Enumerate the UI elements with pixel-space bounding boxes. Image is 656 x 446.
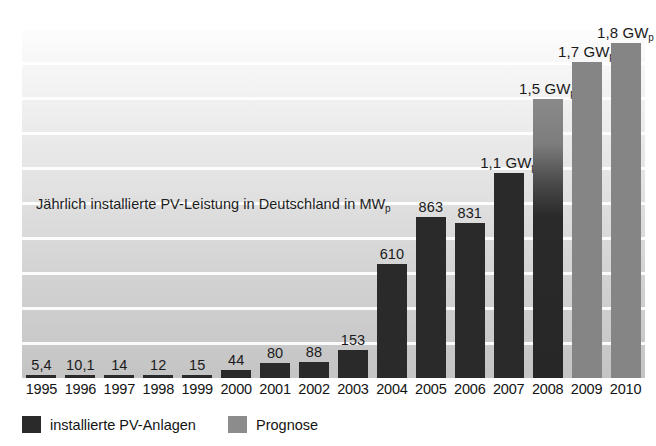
bar-value-text: 1,8 GW (597, 24, 648, 41)
bar-slot: 1,7 GWp (572, 28, 602, 378)
bar-value-label-2003: 153 (341, 332, 366, 348)
bar-value-label-2004: 610 (380, 246, 405, 262)
bar-value-label-1998: 12 (150, 357, 166, 373)
bar-1995[interactable] (26, 375, 56, 379)
x-axis-tick-2006: 2006 (450, 381, 489, 397)
bar-value-text: 5,4 (31, 357, 51, 373)
bar-value-text: 12 (150, 357, 166, 373)
chart-title: Jährlich installierte PV-Leistung in Deu… (36, 196, 391, 212)
bar-value-label-1999: 15 (189, 357, 205, 373)
bar-value-label-2006: 831 (458, 205, 483, 221)
bar-value-text: 1,5 GW (519, 80, 570, 97)
bar-value-text: 10,1 (66, 357, 95, 373)
x-axis-tick-1999: 1999 (178, 381, 217, 397)
bar-2003[interactable] (338, 350, 368, 378)
x-axis-tick-1998: 1998 (139, 381, 178, 397)
bar-value-text: 15 (189, 357, 205, 373)
pv-capacity-bar-chart: 5,410,11412154480881536108638311,1 GWp1,… (0, 0, 656, 446)
x-axis-tick-1997: 1997 (100, 381, 139, 397)
bar-2002[interactable] (299, 362, 329, 378)
bar-value-text: 1,7 GW (558, 43, 609, 60)
bar-value-text: 80 (267, 345, 283, 361)
x-axis: 1995199619971998199920002001200220032004… (22, 381, 645, 403)
bar-value-subscript: p (648, 32, 654, 43)
x-axis-tick-2001: 2001 (256, 381, 295, 397)
bar-value-label-2007: 1,1 GWp (480, 154, 537, 171)
bar-2008[interactable] (533, 99, 563, 378)
x-axis-tick-2007: 2007 (489, 381, 528, 397)
bar-1996[interactable] (65, 375, 95, 379)
bar-slot: 1,8 GWp (611, 28, 641, 378)
bar-value-label-2005: 863 (419, 199, 444, 215)
legend-item-actual[interactable]: installierte PV-Anlagen (22, 416, 196, 433)
bar-slot: 1,5 GWp (533, 28, 563, 378)
x-axis-tick-2005: 2005 (411, 381, 450, 397)
x-axis-tick-2004: 2004 (372, 381, 411, 397)
bar-2004[interactable] (377, 264, 407, 378)
bar-value-label-2002: 88 (306, 344, 322, 360)
legend-swatch-actual-icon (22, 416, 41, 433)
chart-title-text: Jährlich installierte PV-Leistung in Deu… (36, 196, 385, 212)
bar-1997[interactable] (104, 375, 134, 379)
x-axis-tick-2009: 2009 (567, 381, 606, 397)
x-axis-tick-1995: 1995 (22, 381, 61, 397)
x-axis-tick-1996: 1996 (61, 381, 100, 397)
x-axis-tick-2002: 2002 (295, 381, 334, 397)
bar-2001[interactable] (260, 363, 290, 378)
bar-value-label-2000: 44 (228, 352, 244, 368)
bar-2005[interactable] (416, 217, 446, 378)
bar-2000[interactable] (221, 370, 251, 378)
bar-1999[interactable] (182, 375, 212, 379)
bar-value-label-2008: 1,5 GWp (519, 80, 576, 97)
bar-value-text: 14 (111, 357, 127, 373)
bar-1998[interactable] (143, 375, 173, 379)
bar-value-text: 831 (458, 205, 483, 221)
plot-area: 5,410,11412154480881536108638311,1 GWp1,… (22, 28, 645, 378)
bar-value-text: 610 (380, 246, 405, 262)
chart-title-subscript: p (385, 203, 391, 214)
bar-value-label-2009: 1,7 GWp (558, 43, 615, 60)
bar-slot: 863 (416, 28, 446, 378)
bar-value-text: 88 (306, 344, 322, 360)
bar-slot: 831 (455, 28, 485, 378)
x-axis-tick-2000: 2000 (217, 381, 256, 397)
bar-value-text: 153 (341, 332, 366, 348)
legend-label: Prognose (256, 417, 318, 433)
bar-value-label-1996: 10,1 (66, 357, 95, 373)
x-axis-tick-2008: 2008 (528, 381, 567, 397)
legend-item-forecast[interactable]: Prognose (228, 416, 318, 433)
bar-value-text: 1,1 GW (480, 154, 531, 171)
bar-value-label-2001: 80 (267, 345, 283, 361)
legend-label: installierte PV-Anlagen (50, 417, 196, 433)
bar-value-label-1995: 5,4 (31, 357, 51, 373)
bar-value-text: 863 (419, 199, 444, 215)
bar-value-label-1997: 14 (111, 357, 127, 373)
bar-2009[interactable] (572, 62, 602, 378)
bar-2010[interactable] (611, 43, 641, 378)
bar-2007[interactable] (494, 173, 524, 378)
bar-value-label-2010: 1,8 GWp (597, 24, 654, 41)
legend-swatch-forecast-icon (228, 416, 247, 433)
bar-value-text: 44 (228, 352, 244, 368)
x-axis-tick-2010: 2010 (606, 381, 645, 397)
x-axis-tick-2003: 2003 (334, 381, 373, 397)
bar-2006[interactable] (455, 223, 485, 378)
